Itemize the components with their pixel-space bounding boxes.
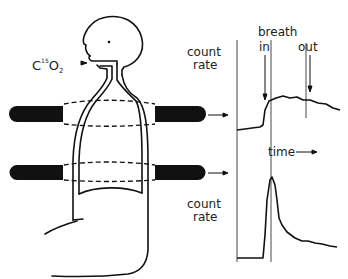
tracer-arrow-icon (81, 61, 87, 65)
airway-inner-left (79, 66, 112, 194)
upper-arrow-icon (223, 113, 228, 117)
lower-right-detector (155, 165, 206, 180)
airway-outer-left (73, 65, 107, 220)
breath-label: breath (258, 26, 297, 38)
upper-right-detector (155, 106, 206, 122)
tracer-mid: O (49, 58, 59, 73)
tracer-base: C (32, 58, 41, 73)
lower-arrow-icon (223, 171, 228, 175)
arm-curve (45, 221, 77, 234)
diagram-canvas (0, 0, 348, 279)
time-label: time (268, 146, 295, 158)
airway-inner-right (117, 64, 142, 193)
lung-base (79, 188, 142, 194)
in-label: in (259, 41, 270, 53)
upper-curve (237, 96, 340, 130)
upper-ylabel-line2: rate (193, 59, 217, 71)
arm-line (73, 219, 83, 220)
in-arrow-icon (263, 94, 267, 100)
out-arrow-icon (308, 86, 312, 92)
upper-left-detector (9, 106, 63, 122)
lower-ylabel-line2: rate (193, 211, 217, 223)
out-label: out (298, 41, 318, 53)
eye (108, 41, 111, 44)
head-outline (83, 17, 142, 75)
upper-ylabel-line1: count (187, 46, 221, 58)
tracer-label: C15O2 (32, 60, 63, 74)
mouth-lip (89, 56, 117, 64)
lower-ylabel-line1: count (187, 198, 221, 210)
airway-outer-right (52, 75, 148, 276)
tracer-subscript: 2 (59, 67, 63, 75)
tracer-superscript: 15 (41, 57, 49, 64)
time-arrow-icon (312, 150, 317, 154)
lower-left-detector (10, 165, 64, 180)
lower-curve (237, 177, 337, 258)
